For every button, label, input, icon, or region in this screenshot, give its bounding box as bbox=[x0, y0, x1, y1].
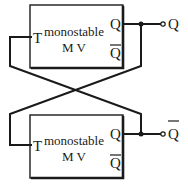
block-top-output-q: Q bbox=[110, 16, 121, 32]
diagram-canvas: T monostable M V Q Q T monostable M V Q … bbox=[0, 0, 188, 188]
block-top-output-qbar: Q bbox=[110, 45, 121, 61]
block-bottom-label-mv: M V bbox=[62, 149, 87, 164]
block-bottom-output-q: Q bbox=[110, 126, 121, 142]
terminal-top bbox=[161, 22, 165, 26]
monostable-block-bottom: T monostable M V Q Q bbox=[30, 115, 123, 178]
block-top-label-monostable: monostable bbox=[44, 24, 104, 39]
terminal-bottom bbox=[161, 132, 165, 136]
monostable-block-top: T monostable M V Q Q bbox=[30, 5, 123, 68]
block-top-label-mv: M V bbox=[62, 40, 87, 55]
block-bottom-input-T: T bbox=[33, 138, 42, 154]
block-bottom-label-monostable: monostable bbox=[44, 133, 104, 148]
output-label-qbar: Q bbox=[168, 126, 179, 142]
block-top-input-T: T bbox=[33, 30, 42, 46]
block-bottom-output-qbar: Q bbox=[110, 155, 121, 171]
output-label-q: Q bbox=[168, 16, 179, 32]
